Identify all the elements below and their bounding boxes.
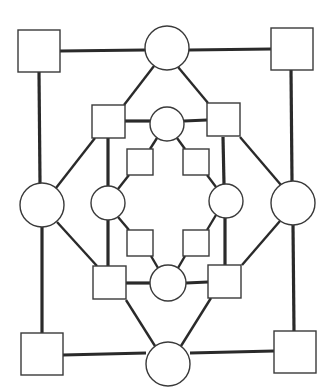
- edges-layer: [39, 49, 294, 355]
- edge-sq-outer-bl-to-ci-outer-bottom: [63, 353, 146, 355]
- edge-ci-mid-bottom-to-sq-mid-br: [186, 282, 208, 283]
- edge-ci-mid-left-to-sq-inner-bl: [118, 217, 129, 230]
- edge-sq-inner-tr-to-ci-mid-right: [207, 175, 216, 187]
- square-node-sq-outer-bl: [21, 333, 63, 375]
- square-node-sq-outer-br: [274, 331, 316, 373]
- edge-ci-outer-right-to-sq-outer-br: [293, 225, 294, 331]
- edge-sq-outer-tl-to-ci-outer-left: [39, 72, 40, 183]
- circle-node-ci-outer-bottom: [146, 342, 190, 386]
- edge-sq-mid-tl-to-ci-outer-left: [56, 138, 95, 188]
- edge-ci-mid-top-to-sq-inner-tl: [150, 138, 157, 149]
- edge-sq-mid-br-to-ci-outer-bottom: [181, 298, 211, 346]
- edge-ci-outer-right-to-sq-mid-br: [242, 221, 280, 265]
- square-node-sq-outer-tl: [18, 30, 60, 72]
- edge-ci-outer-bottom-to-sq-outer-br: [190, 351, 274, 353]
- edge-ci-mid-top-to-sq-inner-tr: [177, 138, 185, 149]
- network-diagram: [0, 0, 334, 387]
- nodes-layer: [18, 26, 316, 386]
- edge-sq-inner-bl-to-ci-mid-bottom: [151, 256, 158, 268]
- square-node-sq-mid-tl: [92, 105, 125, 138]
- edge-ci-outer-top-to-sq-mid-tr: [178, 67, 208, 103]
- circle-node-ci-outer-top: [145, 26, 189, 70]
- square-node-sq-inner-tr: [183, 149, 209, 175]
- circle-node-ci-mid-left: [91, 186, 125, 220]
- edge-ci-outer-top-to-sq-mid-tl: [124, 66, 154, 105]
- edge-sq-inner-br-to-ci-mid-bottom: [178, 256, 185, 268]
- square-node-sq-mid-tr: [207, 103, 240, 136]
- circle-node-ci-mid-right: [209, 184, 243, 218]
- square-node-sq-mid-bl: [93, 266, 126, 299]
- circle-node-ci-outer-left: [20, 183, 64, 227]
- square-node-sq-inner-tl: [127, 149, 153, 175]
- circle-node-ci-mid-top: [150, 107, 184, 141]
- square-node-sq-mid-br: [208, 265, 241, 298]
- edge-sq-outer-tl-to-ci-outer-top: [60, 50, 145, 51]
- square-node-sq-outer-tr: [271, 28, 313, 70]
- square-node-sq-inner-br: [183, 230, 209, 256]
- edge-sq-mid-tr-to-ci-mid-right: [223, 137, 224, 184]
- square-node-sq-inner-bl: [127, 230, 153, 256]
- edge-sq-mid-bl-to-ci-outer-bottom: [126, 300, 155, 346]
- edge-sq-inner-tl-to-ci-mid-left: [118, 175, 129, 189]
- edge-sq-outer-tr-to-ci-outer-right: [291, 70, 292, 181]
- edge-ci-mid-right-to-sq-inner-br: [207, 215, 216, 230]
- circle-node-ci-mid-bottom: [150, 265, 186, 301]
- edge-ci-outer-left-to-sq-mid-bl: [57, 222, 97, 266]
- edge-sq-mid-tr-to-ci-outer-right: [240, 137, 281, 185]
- circle-node-ci-outer-right: [271, 181, 315, 225]
- edge-ci-mid-top-to-sq-mid-tr: [184, 120, 207, 121]
- edge-ci-outer-top-to-sq-outer-tr: [189, 49, 271, 50]
